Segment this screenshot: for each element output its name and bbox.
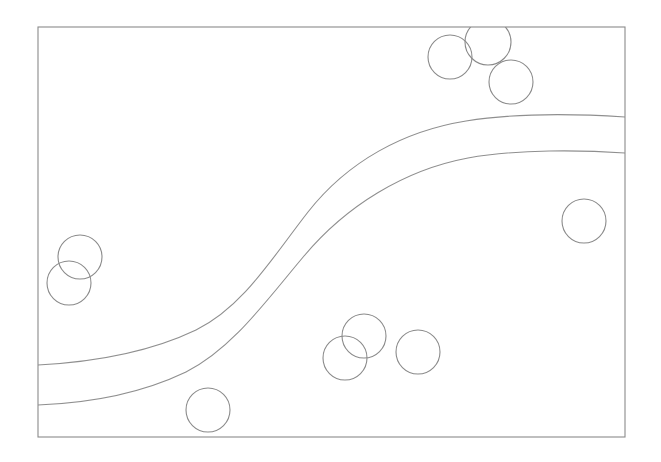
figure-root <box>0 0 661 462</box>
figure-canvas <box>0 0 661 462</box>
figure-background <box>0 0 661 462</box>
